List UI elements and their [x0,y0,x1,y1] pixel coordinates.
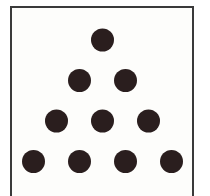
dot [68,150,91,173]
dot [114,69,137,92]
dot [45,110,68,133]
dot [114,150,137,173]
dot [91,110,114,133]
dot-triangle [0,0,210,196]
dot [68,69,91,92]
dot [137,110,160,133]
dot [160,150,183,173]
dot [22,150,45,173]
dot [91,29,114,52]
